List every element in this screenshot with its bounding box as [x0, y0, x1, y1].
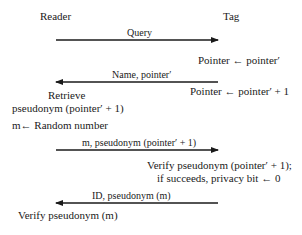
- message-label-id-pseudonym: ID, pseudonym (m): [92, 190, 171, 202]
- message-label-name-pointer: Name, pointer′: [112, 69, 171, 81]
- message-label-query: Query: [127, 27, 152, 39]
- tag-action-pointer-assign: Pointer ← pointer′: [198, 54, 280, 66]
- reader-action-random-number: m← Random number: [12, 119, 108, 131]
- message-label-m-pseudonym: m, pseudonym (pointer′ + 1): [82, 137, 196, 149]
- tag-action-pointer-increment: Pointer ← pointer′ + 1: [190, 85, 289, 97]
- tag-action-verify: Verify pseudonym (pointer′ + 1);: [147, 159, 292, 171]
- reader-action-verify-m: Verify pseudonym (m): [18, 209, 118, 221]
- reader-action-retrieve: Retrieve: [48, 89, 85, 101]
- reader-action-retrieve-pseudonym: pseudonym (pointer′ + 1): [12, 102, 124, 114]
- tag-action-privacy-bit: if succeeds, privacy bit ← 0: [157, 172, 280, 184]
